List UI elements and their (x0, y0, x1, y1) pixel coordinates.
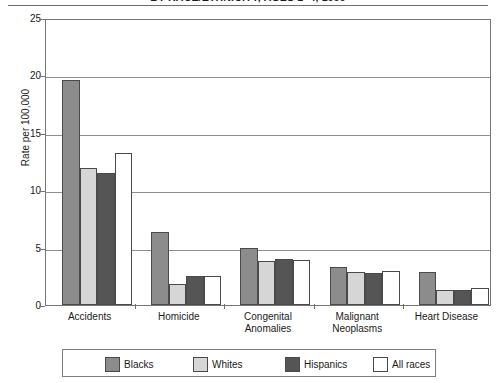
x-axis-category-label: Heart Disease (402, 311, 491, 323)
x-axis-category-label-line2: Neoplasms (313, 323, 402, 335)
bar (80, 168, 98, 305)
legend-label: Blacks (124, 359, 153, 370)
y-axis-tick-label: 20 (1, 71, 41, 81)
legend-item[interactable]: Hispanics (285, 355, 347, 373)
bar (258, 261, 276, 305)
bar (275, 259, 293, 305)
bar (115, 153, 133, 305)
bar (382, 271, 400, 305)
bar (204, 276, 222, 305)
x-axis-category-label: Accidents (45, 311, 134, 323)
y-axis-tick-label: 10 (1, 186, 41, 196)
chart-title: BY RACE/ETHNICITY, AGES 1–4, 1999 (0, 0, 496, 3)
bar (330, 267, 348, 305)
legend-item[interactable]: Blacks (105, 355, 153, 373)
y-axis-tick-label: 25 (1, 14, 41, 24)
legend-label: Whites (212, 359, 243, 370)
x-axis-tick-mark (135, 304, 136, 309)
bar (454, 290, 472, 305)
legend-swatch-icon (285, 357, 300, 372)
bar (240, 248, 258, 305)
legend-item[interactable]: All races (373, 355, 430, 373)
bar (347, 272, 365, 305)
bar (293, 260, 311, 305)
legend-swatch-icon (193, 357, 208, 372)
legend-label: Hispanics (304, 359, 347, 370)
bar-chart-figure: BY RACE/ETHNICITY, AGES 1–4, 1999 Rate p… (0, 0, 496, 383)
title-divider (8, 5, 488, 6)
x-axis-tick-mark (224, 304, 225, 309)
x-axis-tick-mark (403, 304, 404, 309)
x-axis-category-label-line1: Heart Disease (402, 311, 491, 323)
bar (419, 272, 437, 305)
bar-group (419, 20, 489, 305)
chart-legend: BlacksWhitesHispanicsAll races (62, 349, 436, 377)
x-axis-category-label-line1: Malignant (313, 311, 402, 323)
y-axis-tick-label: 15 (1, 129, 41, 139)
bar (186, 276, 204, 305)
x-axis-category-label: CongenitalAnomalies (223, 311, 312, 334)
legend-label: All races (392, 359, 430, 370)
bar (62, 80, 80, 305)
y-axis-tick-label: 0 (1, 301, 41, 311)
bar (151, 232, 169, 305)
bar-group (62, 20, 132, 305)
bar-series-container (46, 20, 490, 305)
x-axis-category-label-line1: Accidents (45, 311, 134, 323)
x-axis-category-label: Homicide (134, 311, 223, 323)
legend-item[interactable]: Whites (193, 355, 243, 373)
x-axis-category-label-line2: Anomalies (223, 323, 312, 335)
x-axis-category-label-line1: Homicide (134, 311, 223, 323)
bar (169, 284, 187, 305)
bar-group (151, 20, 221, 305)
legend-swatch-icon (373, 357, 388, 372)
x-axis-category-label: MalignantNeoplasms (313, 311, 402, 334)
x-axis-tick-mark (314, 304, 315, 309)
bar (471, 288, 489, 305)
y-axis-tick-label: 5 (1, 244, 41, 254)
bar (365, 273, 383, 305)
y-axis-tick-mark (39, 306, 45, 307)
plot-area (45, 19, 491, 306)
bar-group (330, 20, 400, 305)
bar (436, 290, 454, 305)
x-axis-category-label-line1: Congenital (223, 311, 312, 323)
bar-group (240, 20, 310, 305)
legend-swatch-icon (105, 357, 120, 372)
bar (97, 173, 115, 305)
